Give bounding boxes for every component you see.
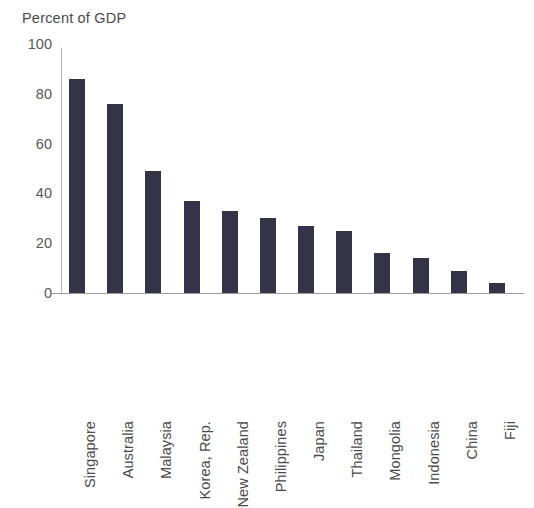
y-axis-tick-label: 20 (36, 235, 52, 251)
y-axis-tick-label: 100 (28, 36, 52, 52)
y-axis-tick-label: 0 (44, 285, 52, 301)
bar-fill (107, 104, 123, 293)
x-axis-category-label: Philippines (273, 421, 289, 492)
bar (145, 44, 161, 293)
bar-fill (260, 218, 276, 293)
bar-fill (298, 226, 314, 293)
x-axis-category-label: Singapore (82, 421, 98, 488)
bar-fill (336, 231, 352, 293)
bar-fill (374, 253, 390, 293)
x-axis-line (52, 293, 524, 294)
x-axis-category-label: Indonesia (426, 421, 442, 485)
x-axis-category-label: Mongolia (387, 421, 403, 481)
bar (107, 44, 123, 293)
bar-fill (184, 201, 200, 293)
bar (298, 44, 314, 293)
bar (489, 44, 505, 293)
y-axis-tick-labels: 020406080100 (0, 0, 52, 423)
category-labels-layer: SingaporeAustraliaMalaysiaKorea, Rep.New… (62, 297, 520, 423)
x-axis-category-label: China (464, 421, 480, 459)
x-axis-category-label: Korea, Rep. (197, 421, 213, 499)
bar-fill (145, 171, 161, 293)
x-axis-category-label: Japan (311, 421, 327, 461)
bar-fill (222, 211, 238, 293)
bar (451, 44, 467, 293)
x-axis-category-label: Fiji (502, 421, 518, 440)
bar (260, 44, 276, 293)
bar-fill (413, 258, 429, 293)
bar-fill (489, 283, 505, 293)
bar (336, 44, 352, 293)
bars-layer (62, 44, 520, 293)
y-axis-tick-label: 80 (36, 86, 52, 102)
y-axis-tick-label: 40 (36, 185, 52, 201)
bar (69, 44, 85, 293)
bar (184, 44, 200, 293)
bar (222, 44, 238, 293)
bar-fill (451, 271, 467, 293)
x-axis-category-label: New Zealand (235, 421, 251, 508)
x-axis-category-label: Australia (120, 421, 136, 478)
bar (413, 44, 429, 293)
bar (374, 44, 390, 293)
x-axis-category-label: Malaysia (158, 421, 174, 479)
y-axis-tick-label: 60 (36, 136, 52, 152)
bar-fill (69, 79, 85, 293)
x-axis-category-label: Thailand (349, 421, 365, 477)
